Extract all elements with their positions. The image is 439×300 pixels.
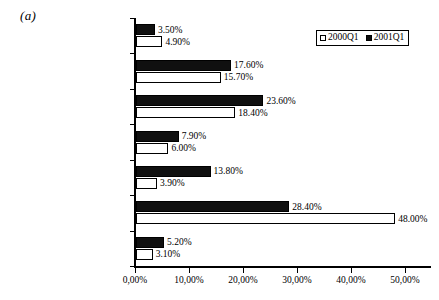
bar-value-label: 23.60% [266,96,295,106]
bar-value-label: 15.70% [224,72,253,82]
bar-2000Q1 [136,143,168,154]
bar-2001Q1 [136,24,155,35]
y-axis-tick [130,18,135,19]
x-axis-tick [135,268,136,273]
x-axis-tick-label: 50,00% [390,275,419,285]
bar-2001Q1 [136,201,289,212]
bar-2000Q1 [136,36,162,47]
bar-2001Q1 [136,237,164,248]
bar-2000Q1 [136,249,153,260]
bar-value-label: 5.20% [167,237,192,247]
bar-value-label: 7.90% [182,131,207,141]
x-axis-tick [189,268,190,273]
bar-2000Q1 [136,213,395,224]
bar-2000Q1 [136,72,221,83]
bar-value-label: 13.80% [214,166,243,176]
bar-value-label: 28.40% [292,202,321,212]
x-axis-tick [351,268,352,273]
x-axis-tick-label: 40,00% [336,275,365,285]
x-axis-tick-label: 10,00% [174,275,203,285]
y-axis-tick [130,89,135,90]
bar-value-label: 17.60% [234,60,263,70]
bar-value-label: 3.90% [160,178,185,188]
bar-2001Q1 [136,166,211,177]
bar-2000Q1 [136,178,157,189]
bar-2001Q1 [136,131,179,142]
x-axis-tick-label: 30,00% [282,275,311,285]
y-axis-tick [130,124,135,125]
x-axis-tick [243,268,244,273]
bar-value-label: 3.50% [158,25,183,35]
x-axis-tick [405,268,406,273]
y-axis-tick [130,53,135,54]
x-axis-tick-label: 0,00% [123,275,148,285]
bar-2001Q1 [136,95,263,106]
y-axis-tick [130,231,135,232]
bar-value-label: 18.40% [238,108,267,118]
bar-2000Q1 [136,107,235,118]
plot-area: 0,00%10,00%20,00%30,00%40,00%50,00%Other… [134,18,431,266]
bar-value-label: 48.00% [398,214,427,224]
x-axis-tick-label: 20,00% [228,275,257,285]
bar-2001Q1 [136,60,231,71]
y-axis-tick [130,266,135,267]
bar-value-label: 4.90% [165,37,190,47]
y-axis-tick [130,160,135,161]
x-axis-line [134,266,431,268]
x-axis-tick [297,268,298,273]
bar-value-label: 3.10% [156,249,181,259]
panel-label: (a) [20,8,36,24]
bar-value-label: 6.00% [171,143,196,153]
figure-panel-a: (a) 2000Q12001Q1 0,00%10,00%20,00%30,00%… [0,0,439,300]
y-axis-tick [130,195,135,196]
